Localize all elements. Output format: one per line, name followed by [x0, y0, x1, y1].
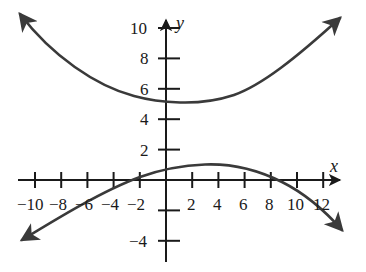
x-tick-label-12: 12 — [313, 196, 330, 213]
y-axis-ticks — [158, 28, 180, 241]
x-tick-label-10: 10 — [287, 196, 304, 213]
y-tick-label-10: 10 — [130, 20, 147, 37]
coordinate-plane-svg — [0, 0, 366, 272]
y-tick-label-6: 6 — [140, 81, 149, 98]
y-tick-label-2: 2 — [140, 142, 149, 159]
y-tick-label--4: −4 — [129, 233, 147, 250]
x-tick-label--6: −6 — [75, 196, 93, 213]
math-graph-figure: −10 −8 −6 −4 −2 2 4 6 8 10 12 2 4 6 8 10… — [0, 0, 366, 272]
x-tick-label--10: −10 — [17, 196, 44, 213]
x-tick-label-2: 2 — [187, 196, 196, 213]
y-tick-label-4: 4 — [140, 111, 149, 128]
y-tick-label-8: 8 — [140, 50, 149, 67]
x-tick-label-6: 6 — [239, 196, 248, 213]
x-tick-label--4: −4 — [101, 196, 119, 213]
x-tick-label-8: 8 — [265, 196, 274, 213]
axis-lines — [18, 20, 340, 262]
y-axis-label: y — [176, 14, 184, 32]
x-tick-label-4: 4 — [213, 196, 222, 213]
x-tick-label--2: −2 — [127, 196, 145, 213]
x-axis-label: x — [330, 157, 338, 175]
x-tick-label--8: −8 — [49, 196, 67, 213]
